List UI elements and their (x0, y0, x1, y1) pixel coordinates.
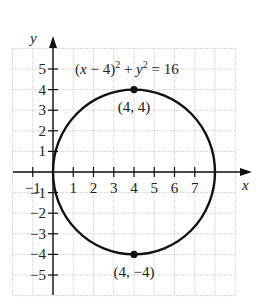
y-tick-label: −5 (30, 267, 46, 283)
point-label-top: (4, 4) (118, 99, 151, 116)
y-tick-label: 3 (39, 102, 47, 118)
y-tick-label: −2 (30, 205, 46, 221)
y-tick-label: 4 (39, 82, 47, 98)
x-tick-label: 1 (70, 180, 78, 196)
x-tick-label: 2 (90, 180, 98, 196)
x-axis-label: x (241, 177, 249, 193)
x-axis-arrow-icon (240, 168, 252, 176)
y-axis-label: y (28, 30, 37, 46)
y-tick-label: 1 (39, 143, 47, 159)
x-tick-label: 7 (191, 180, 199, 196)
y-axis-arrow-icon (49, 36, 57, 48)
x-tick-label: 6 (171, 180, 179, 196)
y-tick-label: −3 (30, 226, 46, 242)
x-tick-label: 3 (110, 180, 118, 196)
y-tick-label: −4 (30, 246, 46, 262)
equation-annotation: (x − 4)2 + y2 = 16 (75, 59, 179, 78)
y-tick-label: 5 (39, 61, 47, 77)
x-tick-label: 4 (130, 180, 138, 196)
y-tick-label: −1 (30, 185, 46, 201)
x-tick-label: 5 (151, 180, 159, 196)
point-label-bottom: (4, −4) (114, 264, 155, 281)
point-marker (130, 251, 137, 258)
labels: y x (x − 4)2 + y2 = 16 (4, 4) (4, −4) (28, 30, 249, 281)
circle-graph: −1123456754321−1−2−3−4−5 y x (x − 4)2 + … (0, 0, 262, 302)
point-marker (130, 86, 137, 93)
y-tick-label: 2 (39, 123, 47, 139)
